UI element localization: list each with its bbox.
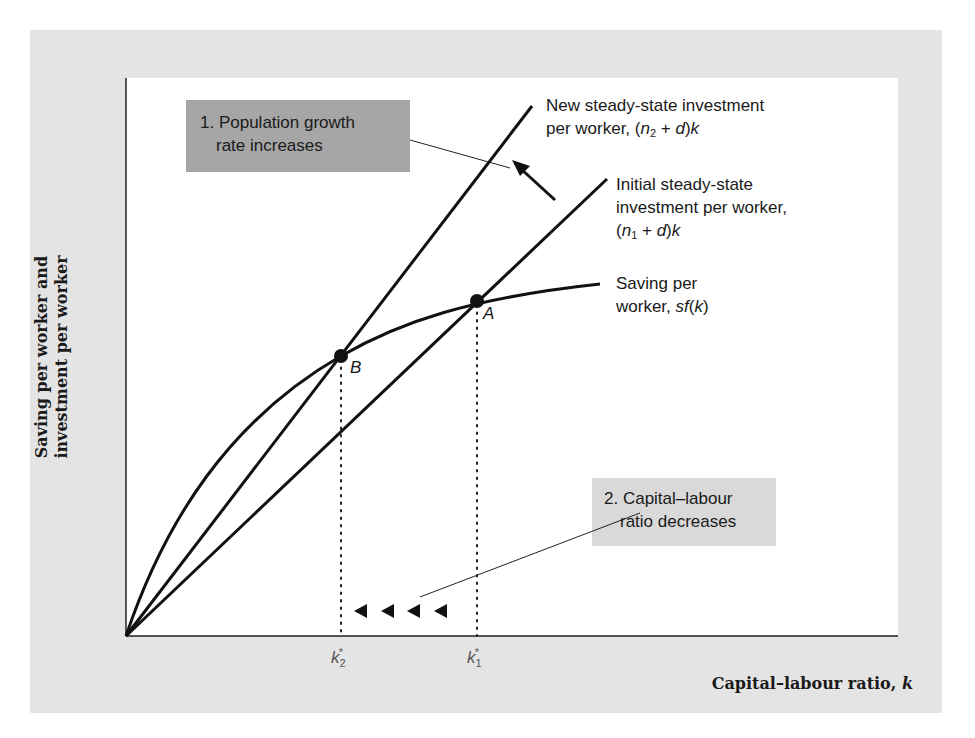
label-new-line1: New steady-state investment — [546, 94, 764, 117]
label-new-line2: per worker, (n2 + d)k — [546, 117, 764, 140]
label-initial-investment: Initial steady-state investment per work… — [616, 173, 787, 242]
left-triangle-icon — [434, 604, 447, 618]
label-saving-line2: worker, sf(k) — [616, 295, 709, 318]
shift-arrow-shaft — [520, 168, 555, 200]
point-label-b: B — [350, 358, 361, 378]
point-label-a: A — [483, 304, 494, 324]
leader-line-2 — [420, 513, 640, 597]
point-a — [470, 294, 484, 308]
tick-k1: k1* — [467, 648, 479, 668]
y-axis-label-line1: Saving per worker and — [32, 255, 52, 458]
left-triangle-icon — [354, 604, 367, 618]
label-saving-line1: Saving per — [616, 272, 709, 295]
saving-curve — [126, 284, 600, 636]
left-triangle-icon — [381, 604, 394, 618]
left-triangle-icon — [407, 604, 420, 618]
label-saving: Saving per worker, sf(k) — [616, 272, 709, 318]
initial-investment-line — [126, 179, 607, 636]
point-b — [334, 349, 348, 363]
label-initial-line3: (n1 + d)k — [616, 219, 787, 242]
new-investment-line — [126, 106, 532, 636]
label-initial-line2: investment per worker, — [616, 196, 787, 219]
label-initial-line1: Initial steady-state — [616, 173, 787, 196]
y-axis-label-line2: investment per worker — [52, 255, 72, 458]
x-axis-label: Capital–labour ratio, k — [712, 674, 913, 693]
label-new-investment: New steady-state investment per worker, … — [546, 94, 764, 140]
tick-k2: k2* — [331, 648, 343, 668]
chart-svg — [0, 0, 975, 738]
